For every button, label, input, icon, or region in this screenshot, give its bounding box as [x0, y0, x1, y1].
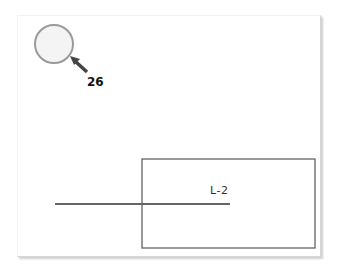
callout-number: 26 — [87, 75, 104, 89]
diagram-canvas — [0, 0, 338, 267]
line-label: L-2 — [210, 184, 228, 197]
callout-circle — [35, 25, 73, 63]
arrow-icon — [70, 56, 87, 72]
